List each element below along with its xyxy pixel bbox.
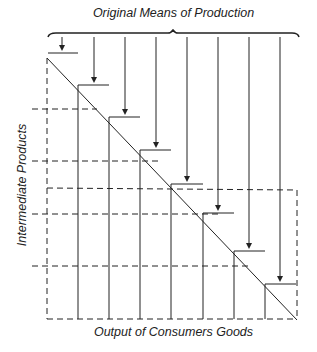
brace [48,30,299,37]
diagonal-line [47,58,297,320]
consumer-goods-label: Output of Consumers Goods [0,325,317,339]
intermediate-products-label: Intermediate Products [15,124,29,246]
stage-bars [48,53,296,284]
hayekian-triangle-diagram [0,0,317,352]
original-means-label: Original Means of Production [0,6,317,20]
dashed-frame [32,58,297,319]
